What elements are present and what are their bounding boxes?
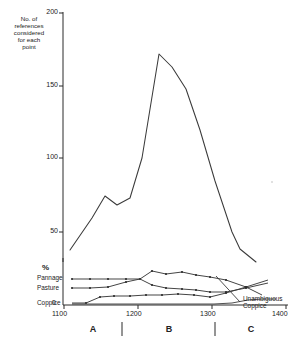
xtick-label-1100: 1100 [52, 310, 67, 318]
upper-ytick-label-200: 200 [38, 8, 58, 16]
series-label-pannage: Pannage [37, 274, 63, 281]
xtick-label-1400: 1400 [272, 310, 288, 318]
period-label-c: C [236, 324, 266, 334]
coppice-line [72, 280, 268, 303]
series-label-unambiguous-coppice: Unambiguous Coppice [243, 296, 282, 309]
upper-ytick-label-100: 100 [38, 153, 58, 161]
pannage-line [72, 271, 262, 295]
series-label-coppice: Coppice [37, 299, 60, 306]
upper-ytick-label-150: 150 [38, 81, 58, 89]
upper-axis-caption: No. of references considered for each po… [1, 16, 57, 51]
lower-percent-label: % [42, 264, 49, 273]
pasture-markers [71, 281, 247, 293]
pasture-line [72, 279, 268, 292]
scan-artifact-speck [271, 181, 273, 183]
xtick-label-1200: 1200 [126, 310, 142, 318]
xtick-label-1300: 1300 [200, 310, 216, 318]
period-label-b: B [154, 324, 184, 334]
series-label-pasture: Pasture [37, 284, 59, 291]
figure-scan: 200 150 100 50 No. of references conside… [0, 0, 297, 345]
chart-vector-layer [0, 0, 297, 345]
upper-ytick-label-50: 50 [38, 227, 58, 235]
period-label-a: A [78, 324, 108, 334]
unambiguous-coppice-leader [216, 276, 240, 302]
upper-reference-count-line [70, 54, 256, 262]
